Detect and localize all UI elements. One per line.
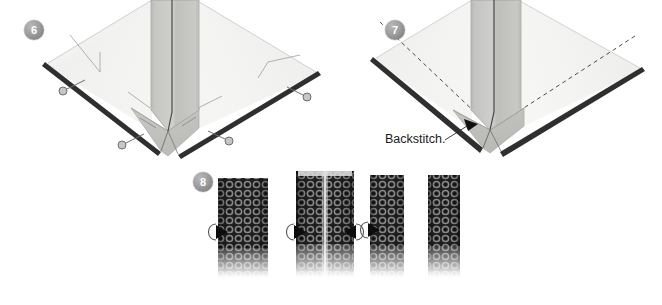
diagram-stage: 6 xyxy=(0,0,662,305)
center-column xyxy=(151,0,199,131)
fabric-strip xyxy=(287,171,364,284)
step-8-panel: 8 xyxy=(0,162,662,305)
fabric-strip xyxy=(209,178,269,284)
fabric-strip xyxy=(428,175,460,284)
backstitch-label: Backstitch. xyxy=(385,132,445,146)
pin-icon xyxy=(287,87,311,101)
center-column xyxy=(471,0,521,130)
step-7-panel: 7 Backstitch. xyxy=(340,0,662,170)
step-8-illustration xyxy=(0,162,662,305)
step-6-badge: 6 xyxy=(24,20,44,40)
step-6-illustration xyxy=(0,0,340,170)
step-6-panel: 6 xyxy=(0,0,340,170)
step-7-badge: 7 xyxy=(385,20,405,40)
step-8-badge: 8 xyxy=(193,172,213,192)
fabric-strip xyxy=(361,175,405,284)
